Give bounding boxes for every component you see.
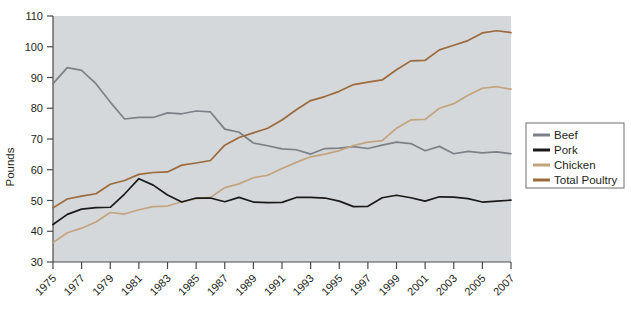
y-tick-label: 110 bbox=[25, 10, 43, 22]
y-tick-label: 60 bbox=[31, 164, 43, 176]
legend-label-total-poultry: Total Poultry bbox=[554, 174, 618, 186]
x-tick-label: 1977 bbox=[61, 272, 87, 298]
x-tick-label: 2005 bbox=[462, 272, 488, 298]
x-tick-label: 1999 bbox=[376, 272, 402, 298]
y-tick-label: 100 bbox=[25, 41, 43, 53]
x-tick-label: 1993 bbox=[290, 272, 316, 298]
plot-area bbox=[53, 16, 511, 262]
x-tick-label: 1987 bbox=[204, 272, 230, 298]
x-tick-label: 1975 bbox=[33, 272, 59, 298]
legend-label-chicken: Chicken bbox=[554, 159, 596, 171]
x-tick-label: 2007 bbox=[491, 272, 517, 298]
x-tick-label: 1985 bbox=[176, 272, 202, 298]
x-tick-label: 1995 bbox=[319, 272, 345, 298]
x-tick-label: 2001 bbox=[405, 272, 431, 298]
plot-background bbox=[53, 16, 511, 262]
x-tick-label: 1989 bbox=[233, 272, 259, 298]
y-tick-label: 90 bbox=[31, 72, 43, 84]
x-tick-label: 1997 bbox=[347, 272, 373, 298]
chart-legend: BeefPorkChickenTotal Poultry bbox=[526, 123, 624, 188]
y-axis-title: Pounds bbox=[4, 147, 16, 186]
x-axis-ticks: 1975197719791981198319851987198919911993… bbox=[33, 262, 517, 298]
x-tick-label: 1991 bbox=[262, 272, 288, 298]
chart-container: 30405060708090100110 1975197719791981198… bbox=[0, 0, 631, 311]
y-tick-label: 50 bbox=[31, 195, 43, 207]
legend-label-pork: Pork bbox=[554, 144, 578, 156]
y-tick-label: 80 bbox=[31, 102, 43, 114]
line-chart: 30405060708090100110 1975197719791981198… bbox=[0, 0, 631, 311]
x-tick-label: 1979 bbox=[90, 272, 116, 298]
y-axis-ticks: 30405060708090100110 bbox=[25, 10, 53, 268]
y-tick-label: 30 bbox=[31, 256, 43, 268]
x-tick-label: 1981 bbox=[118, 272, 144, 298]
x-tick-label: 1983 bbox=[147, 272, 173, 298]
y-tick-label: 70 bbox=[31, 133, 43, 145]
x-tick-label: 2003 bbox=[433, 272, 459, 298]
legend-label-beef: Beef bbox=[554, 129, 578, 141]
y-axis-title-text: Pounds bbox=[4, 147, 16, 186]
y-tick-label: 40 bbox=[31, 225, 43, 237]
